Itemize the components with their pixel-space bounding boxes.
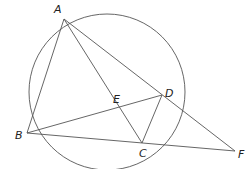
label-e: E [113,93,120,106]
label-b: B [15,129,23,142]
segment-ac [64,19,142,143]
segment-af [64,19,235,151]
circle [29,14,185,169]
label-a: A [53,3,62,16]
label-c: C [139,147,147,160]
label-f: F [238,148,245,161]
segment-ab [27,19,64,133]
label-d: D [165,87,173,100]
segment-bd [27,95,162,133]
segment-cd [142,95,162,143]
geometry-diagram: A B C D E F [0,0,250,169]
segment-bf [27,133,235,151]
